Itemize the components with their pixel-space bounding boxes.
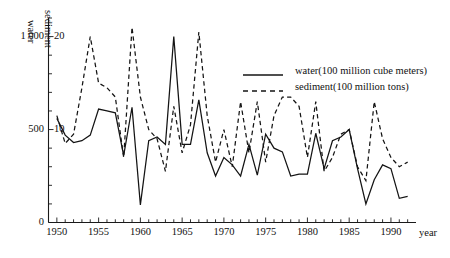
chart-legend: water(100 million cube meters) sediment(… (243, 63, 427, 95)
legend-swatch-dashed-icon (243, 82, 283, 92)
y-axis-tick-label-water: 0 (0, 217, 44, 228)
x-axis-tick-label: 1960 (120, 227, 160, 238)
x-axis-tick-label: 1990 (371, 227, 411, 238)
chart-plot-area (0, 0, 450, 258)
legend-label-sediment: sediment(100 million tons) (295, 82, 409, 93)
legend-item-sediment: sediment(100 million tons) (243, 79, 427, 95)
x-axis-ticks (57, 218, 408, 223)
x-axis-tick-label: 1975 (246, 227, 286, 238)
y-axis-tick-label-water: 500 (0, 124, 44, 135)
y-axis-tick-label-sediment: 20 (54, 31, 65, 42)
x-axis-tick-label: 1985 (329, 227, 369, 238)
y-axis-title-sediment: sediment (43, 10, 54, 48)
legend-item-water: water(100 million cube meters) (243, 63, 427, 79)
x-axis-tick-label: 1980 (287, 227, 327, 238)
chart-figure: water sediment year 05001 000 1020 19501… (0, 0, 450, 258)
x-axis-tick-label: 1970 (204, 227, 244, 238)
y-axis-tick-label-water: 1 000 (0, 31, 44, 42)
series-line-water (57, 37, 408, 205)
x-axis-title-year: year (419, 227, 437, 238)
y-axis-ticks (49, 18, 54, 223)
chart-axes (49, 18, 417, 223)
legend-swatch-solid-icon (243, 66, 283, 76)
legend-label-water: water(100 million cube meters) (295, 66, 427, 77)
y-axis-tick-label-sediment: 10 (54, 124, 65, 135)
x-axis-tick-label: 1955 (79, 227, 119, 238)
x-axis-tick-label: 1950 (37, 227, 77, 238)
x-axis-tick-label: 1965 (162, 227, 202, 238)
